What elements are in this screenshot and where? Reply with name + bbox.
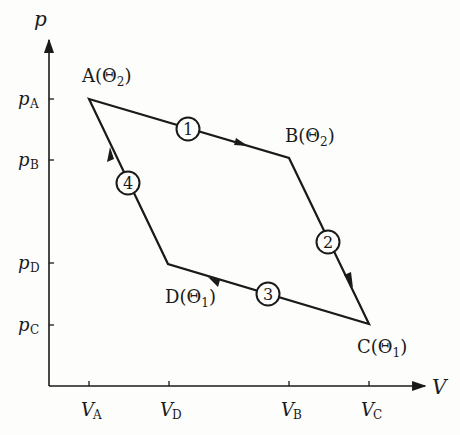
svg-text:C: C xyxy=(30,323,39,337)
x-tick-VC: V C xyxy=(361,381,382,422)
svg-text:A: A xyxy=(29,97,39,111)
svg-text:p: p xyxy=(18,88,30,109)
x-tick-VA: V A xyxy=(81,381,102,422)
svg-text:A: A xyxy=(92,408,102,422)
point-label-B: B(Θ2) xyxy=(285,125,335,149)
process-1-marker: 1 xyxy=(177,118,200,141)
svg-text:A(Θ2): A(Θ2) xyxy=(81,65,131,89)
x-axis-label: V xyxy=(432,375,449,399)
svg-text:B(Θ2): B(Θ2) xyxy=(285,125,335,149)
svg-text:p: p xyxy=(18,149,30,170)
point-label-C: C(Θ1) xyxy=(357,336,407,360)
svg-text:C(Θ1): C(Θ1) xyxy=(357,336,407,360)
svg-text:1: 1 xyxy=(183,120,193,139)
svg-text:C: C xyxy=(373,408,382,422)
y-axis-label: p xyxy=(34,7,47,31)
arrow-icon-process-1 xyxy=(234,138,248,146)
svg-text:4: 4 xyxy=(123,174,133,193)
process-4-marker: 4 xyxy=(117,172,140,195)
svg-text:3: 3 xyxy=(263,285,273,304)
svg-text:p: p xyxy=(18,314,30,335)
svg-text:B: B xyxy=(293,408,302,422)
process-2-marker: 2 xyxy=(317,231,340,254)
svg-text:D(Θ1): D(Θ1) xyxy=(165,286,216,310)
svg-text:p: p xyxy=(18,252,30,273)
point-label-A: A(Θ2) xyxy=(81,65,131,89)
x-tick-VB: V B xyxy=(281,381,302,422)
pv-diagram: p V p A p B p D p C V A V D V B V C xyxy=(0,0,460,435)
svg-text:2: 2 xyxy=(323,233,333,252)
point-label-D: D(Θ1) xyxy=(165,286,216,310)
svg-text:D: D xyxy=(30,261,40,275)
svg-text:D: D xyxy=(172,408,182,422)
x-tick-VD: V D xyxy=(160,381,182,422)
svg-text:B: B xyxy=(30,158,39,172)
process-3-marker: 3 xyxy=(257,283,280,306)
